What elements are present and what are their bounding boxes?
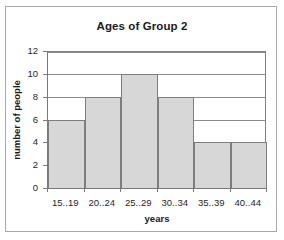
x-axis-tick-label: 20..24 — [84, 198, 121, 208]
y-axis-tick — [43, 51, 47, 52]
x-axis-tick — [230, 188, 231, 192]
y-axis-line — [47, 51, 48, 189]
chart-frame: Ages of Group 2 024681012 15..1920..2425… — [5, 6, 277, 232]
y-axis-tick — [43, 142, 47, 143]
bars-group — [48, 52, 265, 188]
x-axis-tick-label: 30..34 — [157, 198, 194, 208]
x-axis-tick — [193, 188, 194, 192]
bar — [158, 97, 195, 188]
bar — [231, 142, 268, 188]
bar — [194, 142, 231, 188]
y-axis-tick — [43, 97, 47, 98]
chart-title: Ages of Group 2 — [6, 20, 278, 32]
x-axis-tick — [157, 188, 158, 192]
x-axis-tick — [84, 188, 85, 192]
y-axis-title: number of people — [11, 80, 22, 160]
x-axis-tick — [266, 188, 267, 192]
x-axis-tick-label: 40..44 — [230, 198, 267, 208]
y-axis-title-container: number of people — [8, 51, 24, 188]
x-axis-tick — [120, 188, 121, 192]
x-axis-tick — [47, 188, 48, 192]
y-axis-tick — [43, 74, 47, 75]
bar — [48, 120, 85, 189]
x-axis-title: years — [47, 213, 267, 224]
x-axis-tick-label: 35..39 — [193, 198, 230, 208]
bar — [121, 74, 158, 188]
x-axis-tick-label: 15..19 — [47, 198, 84, 208]
y-axis-tick — [43, 120, 47, 121]
x-axis-tick-label: 25..29 — [120, 198, 157, 208]
plot-area — [47, 51, 266, 188]
y-axis-tick — [43, 165, 47, 166]
bar — [85, 97, 122, 188]
